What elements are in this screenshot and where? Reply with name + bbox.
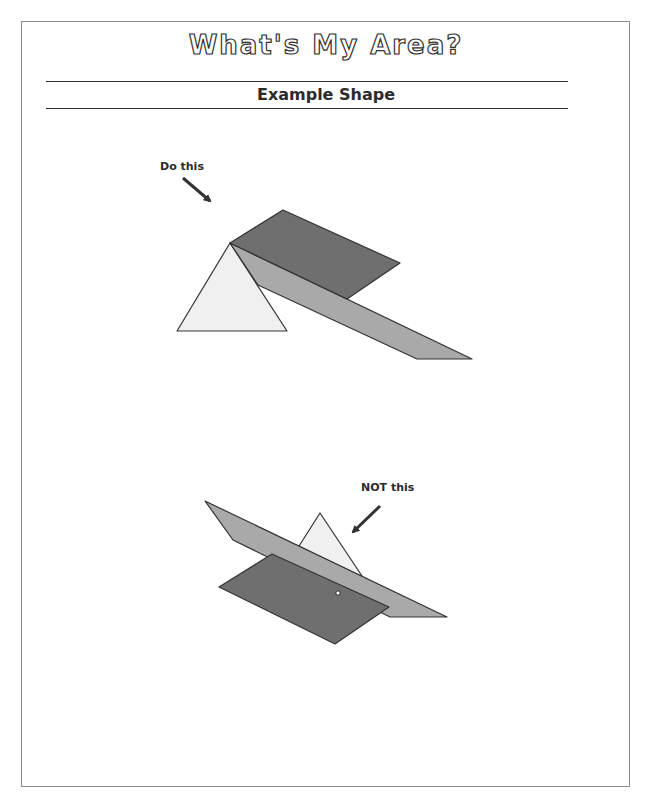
do-this-arrow-icon — [183, 178, 210, 201]
incorrect-example-shape — [205, 501, 447, 644]
point-marker-icon — [336, 591, 340, 595]
not-this-arrow-icon — [353, 506, 380, 532]
example-figures — [0, 0, 652, 805]
correct-example-shape — [177, 210, 472, 359]
